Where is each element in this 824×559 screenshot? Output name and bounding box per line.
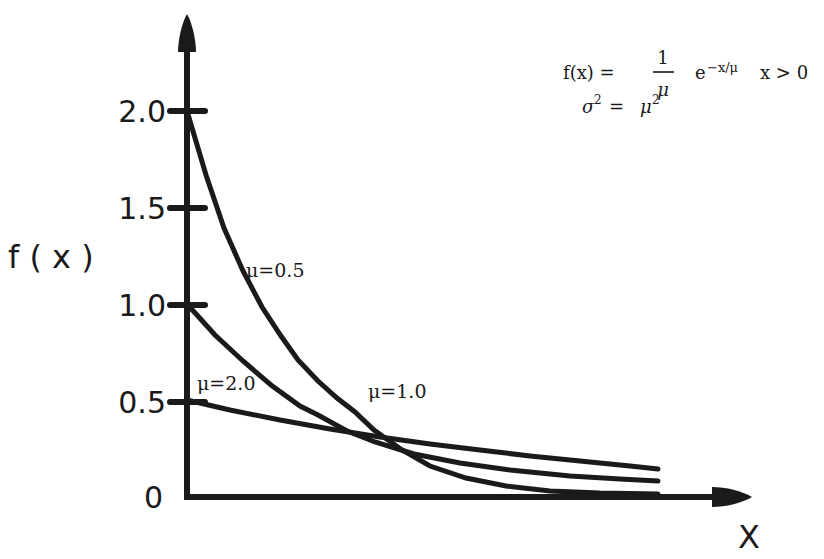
x-axis: X [184,487,760,556]
y-axis-title: f ( x ) [8,238,94,276]
pdf-formula: f(x) = 1 μ e −x/μ x > 0 σ 2 = μ 2 [563,47,808,117]
curve-mu-0-5 [187,111,658,494]
formula-lhs: f(x) = [563,62,615,83]
curve-mu-2-0 [187,400,658,469]
formula-exp-base: e [695,62,706,83]
formula-exponent: −x/μ [707,60,738,75]
y-axis-arrow-icon [178,14,196,52]
variance-lhs-sup: 2 [594,93,602,107]
y-tick-label-2-0: 2.0 [118,94,166,129]
variance-rhs-sup: 2 [652,93,660,107]
x-axis-title: X [738,518,760,556]
label-mu-2-0: μ=2.0 [197,372,255,394]
curves [187,111,658,494]
y-tick-label-0: 0 [144,480,163,515]
y-tick-label-0-5: 0.5 [118,385,166,420]
formula-numerator: 1 [657,47,668,68]
variance-eq: = [609,96,624,117]
y-tick-label-1-0: 1.0 [118,288,166,323]
x-axis-arrow-icon [712,487,752,507]
label-mu-1-0: μ=1.0 [368,380,426,402]
y-axis: 2.0 1.5 1.0 0.5 0 f ( x ) [8,14,205,515]
exponential-distribution-chart: 2.0 1.5 1.0 0.5 0 f ( x ) X μ=0.5 μ=1.0 … [0,0,824,559]
y-tick-label-1-5: 1.5 [118,191,166,226]
formula-condition: x > 0 [760,62,808,83]
label-mu-0-5: μ=0.5 [246,259,304,281]
variance-rhs: μ [640,96,652,117]
